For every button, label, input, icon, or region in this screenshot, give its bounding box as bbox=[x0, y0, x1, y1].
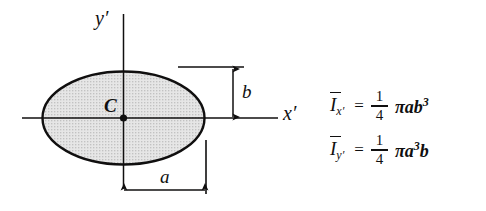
dimension-a-label: a bbox=[160, 167, 170, 186]
expression-pi-a-b-cubed: πab3 bbox=[395, 95, 429, 118]
formula-moment-of-inertia-x: Ix′ = 1 4 πab3 bbox=[330, 84, 486, 128]
subscript-y-prime: y′ bbox=[336, 148, 344, 162]
term-base-a: a bbox=[405, 141, 414, 161]
symbol-I-x: Ix′ bbox=[330, 94, 345, 119]
overbar-icon bbox=[330, 92, 341, 94]
y-prime-axis-label: y′ bbox=[95, 8, 108, 28]
formula-moment-of-inertia-y: Iy′ = 1 4 πa3b bbox=[330, 128, 486, 172]
overbar-icon bbox=[330, 136, 341, 138]
centroid-label: C bbox=[104, 96, 117, 115]
formula-list: Ix′ = 1 4 πab3 Iy′ = 1 4 πa3b bbox=[330, 84, 486, 172]
exponent-3: 3 bbox=[423, 95, 429, 109]
term-base-ab: ab bbox=[405, 97, 423, 117]
term-base-b: b bbox=[420, 141, 429, 161]
dimension-b-label: b bbox=[242, 82, 252, 101]
fraction-numerator: 1 bbox=[374, 89, 386, 105]
expression-pi-a-cubed-b: πa3b bbox=[395, 139, 429, 162]
fraction-one-quarter: 1 4 bbox=[371, 133, 388, 167]
pi-symbol: π bbox=[395, 141, 405, 161]
equals-sign: = bbox=[354, 96, 364, 116]
fraction-denominator: 4 bbox=[374, 151, 386, 167]
pi-symbol: π bbox=[395, 97, 405, 117]
fraction-numerator: 1 bbox=[374, 133, 386, 149]
x-prime-axis-label: x′ bbox=[283, 103, 296, 123]
symbol-I-y: Iy′ bbox=[330, 138, 345, 163]
equals-sign: = bbox=[354, 140, 364, 160]
figure-ellipse-moment-of-inertia: y′ x′ C b a Ix′ = 1 4 πab3 Iy′ = 1 bbox=[0, 0, 486, 211]
subscript-x-prime: x′ bbox=[336, 104, 344, 118]
centroid-dot bbox=[120, 114, 127, 121]
fraction-one-quarter: 1 4 bbox=[371, 89, 388, 123]
fraction-denominator: 4 bbox=[374, 107, 386, 123]
